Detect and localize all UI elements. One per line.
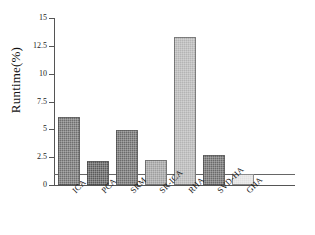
runtime-bar-chart: Runtime(%) 02.557.51012.515 ICAPCASRMSR-… <box>0 0 315 235</box>
y-tick-label: 10 <box>0 70 47 78</box>
y-tick-label: 15 <box>0 14 47 22</box>
y-tick-label: 2.5 <box>0 153 47 161</box>
bars-layer <box>54 18 295 185</box>
y-axis-title: Runtime(%) <box>8 20 24 140</box>
bar-rha <box>174 37 196 185</box>
y-tick-label: 12.5 <box>0 42 47 50</box>
y-tick-label: 5 <box>0 125 47 133</box>
bar-ica <box>58 117 80 185</box>
y-tick-label: 7.5 <box>0 98 47 106</box>
bar-srm <box>116 130 138 185</box>
y-tick-label: 0 <box>0 181 47 189</box>
y-tick-mark <box>49 185 54 186</box>
